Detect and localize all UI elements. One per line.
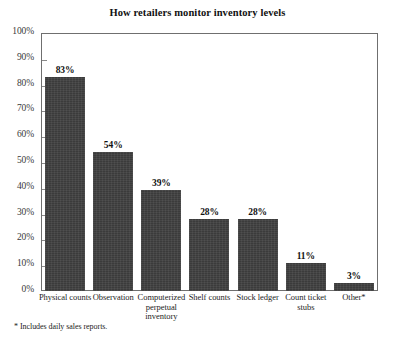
y-tick-label: 30% (17, 207, 34, 217)
bar-value-label: 28% (234, 207, 282, 217)
y-tick-label: 60% (17, 129, 34, 139)
y-tick-label: 50% (17, 155, 34, 165)
bar[interactable] (238, 219, 278, 291)
bar[interactable] (286, 263, 326, 291)
bar[interactable] (334, 283, 374, 291)
bar-slot: 11% (282, 33, 330, 291)
bar-value-label: 28% (185, 207, 233, 217)
y-tick-label: 20% (17, 232, 34, 242)
bar-slot: 28% (234, 33, 282, 291)
y-tick-label: 10% (17, 258, 34, 268)
y-tick-label: 90% (17, 52, 34, 62)
y-tick-label: 40% (17, 181, 34, 191)
chart-footnote: * Includes daily sales reports. (14, 322, 107, 331)
y-tick-label: 80% (17, 78, 34, 88)
y-axis: 0%10%20%30%40%50%60%70%80%90%100% (0, 28, 41, 294)
bar-value-label: 3% (330, 271, 378, 281)
x-axis-label: Other* (326, 293, 382, 303)
bar-slot: 54% (89, 33, 137, 291)
bar-slot: 83% (41, 33, 89, 291)
y-tick-label: 0% (22, 284, 34, 294)
bar[interactable] (93, 152, 133, 291)
chart-title: How retailers monitor inventory levels (0, 7, 395, 18)
y-tick-label: 100% (12, 26, 34, 36)
bar[interactable] (189, 219, 229, 291)
bar-value-label: 83% (41, 65, 89, 75)
bar[interactable] (45, 77, 85, 291)
bar-value-label: 11% (282, 251, 330, 261)
bar-slot: 39% (137, 33, 185, 291)
bar-slot: 28% (185, 33, 233, 291)
bar[interactable] (141, 190, 181, 291)
y-tick-label: 70% (17, 103, 34, 113)
bar-series: 83%54%39%28%28%11%3% (41, 33, 378, 291)
bar-value-label: 39% (137, 178, 185, 188)
bar-value-label: 54% (89, 140, 137, 150)
bar-slot: 3% (330, 33, 378, 291)
